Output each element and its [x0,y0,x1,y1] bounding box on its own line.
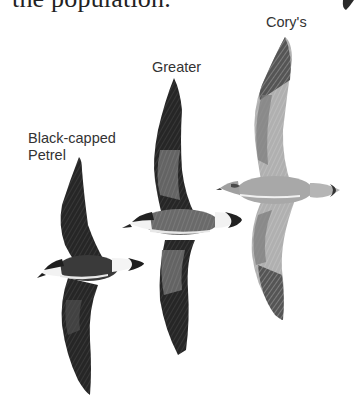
black-capped-petrel-figure [37,157,144,395]
corys-shearwater-figure [216,37,340,320]
greater-shearwater-figure [122,78,242,355]
bird-illustration [0,0,360,404]
